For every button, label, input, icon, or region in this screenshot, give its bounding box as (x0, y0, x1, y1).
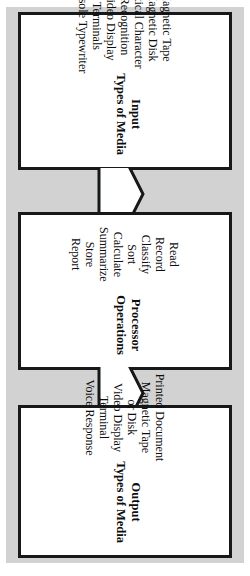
stage-input-heading: Input Types of Media (107, 73, 143, 155)
list-item: Magnetic Tape (160, 0, 174, 73)
list-item: Terminals (90, 0, 104, 73)
stage-output-title: Output (129, 482, 144, 522)
stage-input[interactable]: Input Types of Media Magnetic Tape Magne… (18, 12, 232, 170)
list-item: Report (69, 227, 83, 282)
stage-input-list: Magnetic Tape Magnetic Disk Optical Char… (76, 0, 174, 73)
list-item: Console Typewriter (76, 0, 90, 73)
stage-output-heading: Output Types of Media (107, 461, 143, 543)
stage-processor-heading: Processor Operations (107, 295, 143, 355)
list-item: Printed Document (153, 374, 167, 462)
stage-output[interactable]: Output Types of Media Printed Document M… (18, 405, 232, 558)
flowchart-canvas: Input Types of Media Magnetic Tape Magne… (6, 7, 244, 563)
list-item: Video Display (111, 374, 125, 462)
stage-output-subtitle: Types of Media (114, 461, 129, 543)
list-item: Record (153, 227, 167, 282)
stage-input-title: Input (129, 99, 144, 129)
list-item: Calculate (111, 227, 125, 282)
list-item: Magnetic Disk (146, 0, 160, 73)
stage-processor-title: Processor (129, 299, 144, 352)
stage-input-subtitle: Types of Media (114, 73, 129, 155)
stage-processor-subtitle: Operations (114, 295, 129, 355)
list-item: Sort (125, 227, 139, 282)
list-item: Summarize (97, 227, 111, 282)
stage-processor[interactable]: Processor Operations Read Record Classif… (18, 212, 232, 370)
diagram-page: Input Types of Media Magnetic Tape Magne… (0, 0, 250, 576)
stage-output-list: Printed Document Magnetic Tape or Disk V… (83, 374, 167, 462)
list-item: Terminal (97, 374, 111, 462)
list-item: or Disk (125, 374, 139, 462)
list-item: Recognition (118, 0, 132, 73)
list-item: Classify (139, 227, 153, 282)
list-item: Optical Character (132, 0, 146, 73)
list-item: Video Display (104, 0, 118, 73)
list-item: Voice Response (83, 374, 97, 462)
list-item: Read (167, 227, 181, 282)
list-item: Magnetic Tape (139, 374, 153, 462)
list-item: Store (83, 227, 97, 282)
stage-processor-list: Read Record Classify Sort Calculate Summ… (69, 227, 181, 282)
